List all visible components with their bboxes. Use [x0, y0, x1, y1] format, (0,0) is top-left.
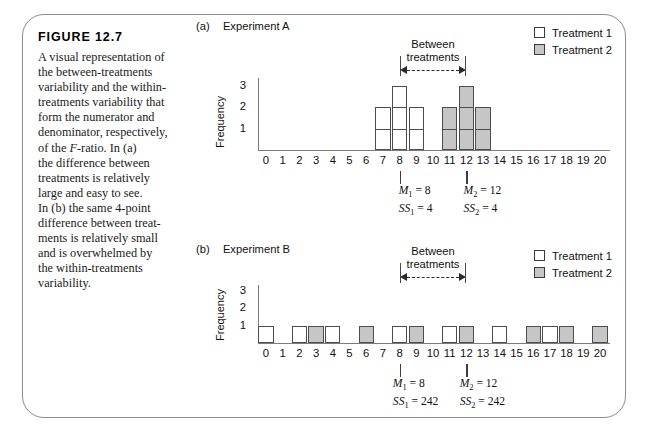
- caption-line: denominator, respectively,: [38, 125, 178, 140]
- x-tick-label: 9: [413, 154, 419, 166]
- x-tick-label: 19: [577, 347, 590, 359]
- mean-stat-line: M1 = 8: [399, 184, 433, 202]
- x-tick-label: 7: [380, 154, 386, 166]
- x-tick-label: 11: [444, 347, 456, 359]
- x-tick-label: 19: [577, 154, 590, 166]
- x-tick-label: 10: [427, 154, 440, 166]
- histogram-bar: [442, 326, 457, 343]
- mean-stat-line: M2 = 12: [460, 377, 506, 395]
- caption-line: In (b) the same 4-point: [38, 201, 178, 216]
- arrowhead-right-icon: [459, 66, 466, 74]
- x-tick-label: 14: [494, 154, 507, 166]
- x-tick-label: 17: [544, 347, 557, 359]
- x-tick-label: 15: [510, 347, 523, 359]
- bar-unit-divider: [475, 129, 490, 130]
- mean-pointer-tick: [466, 364, 467, 377]
- bar-unit-divider: [459, 107, 474, 108]
- x-tick-label: 5: [346, 154, 352, 166]
- histogram-bar: [459, 86, 474, 150]
- legend-label-treatment-1-b: Treatment 1: [552, 250, 612, 262]
- histogram-bar: [492, 326, 507, 343]
- legend-item-treatment-2: Treatment 2: [534, 42, 612, 57]
- panel-b-title: (b) Experiment B: [196, 243, 290, 255]
- caption-line: large and easy to see.: [38, 186, 178, 201]
- x-tick-label: 2: [296, 347, 302, 359]
- y-tick-label: 2: [234, 301, 246, 313]
- caption-line: the difference between: [38, 156, 178, 171]
- x-tick-label: 11: [444, 154, 456, 166]
- between-treatments-annotation-b: Between treatments: [400, 245, 467, 284]
- legend-item-treatment-1: Treatment 1: [534, 25, 612, 40]
- x-tick-label: 2: [296, 154, 302, 166]
- arrowhead-left-icon: [400, 66, 407, 74]
- bar-unit-divider: [375, 129, 390, 130]
- x-tick-label: 18: [560, 154, 573, 166]
- caption-line: A visual representation of: [38, 50, 178, 65]
- ss-stat-line: SS2 = 4: [463, 202, 501, 220]
- treatment-stats-block: M1 = 8SS1 = 242: [393, 377, 439, 413]
- figure-number-label: FIGURE 12.7: [38, 30, 178, 44]
- caption-line: the between-treatments: [38, 65, 178, 80]
- y-tick-label: 3: [234, 79, 246, 91]
- bar-unit-divider: [392, 129, 407, 130]
- x-tick-label: 8: [396, 347, 402, 359]
- x-axis-line: [258, 150, 610, 151]
- legend-label-treatment-1: Treatment 1: [552, 27, 612, 39]
- x-tick-label: 12: [460, 347, 473, 359]
- panel-a-marker: (a): [196, 20, 210, 32]
- panel-a-title: (a) Experiment A: [196, 20, 289, 32]
- mean-pointer-tick: [400, 171, 401, 184]
- mean-pointer-tick: [466, 171, 467, 184]
- caption-line: treatments is relatively: [38, 171, 178, 186]
- caption-line: difference between treat-: [38, 216, 178, 231]
- x-tick-label: 6: [363, 154, 369, 166]
- x-axis-line: [258, 343, 610, 344]
- caption-line: ments is relatively small: [38, 231, 178, 246]
- caption-line: the within-treatments: [38, 261, 178, 276]
- between-label-line2-b: treatments: [407, 258, 460, 270]
- panel-a-title-text: Experiment A: [223, 20, 290, 32]
- x-tick-label: 16: [527, 154, 540, 166]
- histogram-bar: [392, 326, 407, 343]
- treatment-stats-block: M2 = 12SS2 = 242: [460, 377, 506, 413]
- ss-stat-line: SS1 = 242: [393, 395, 439, 413]
- bar-unit-divider: [442, 129, 457, 130]
- histogram-bar: [392, 86, 407, 150]
- arrow-dashed-line-b: [407, 277, 460, 278]
- histogram-bar: [559, 326, 574, 343]
- legend-swatch-treatment-2: [534, 44, 545, 55]
- ss-stat-line: SS1 = 4: [399, 202, 433, 220]
- treatment-stats-block: M2 = 12SS2 = 4: [463, 184, 501, 220]
- y-axis-title: Frequency: [214, 289, 226, 341]
- x-tick-label: 4: [330, 347, 336, 359]
- panel-experiment-a: (a) Experiment A Treatment 1 Treatment 2…: [196, 20, 616, 235]
- x-tick-label: 15: [510, 154, 523, 166]
- x-tick-label: 13: [477, 347, 490, 359]
- x-tick-label: 1: [280, 154, 286, 166]
- between-label-line2: treatments: [407, 51, 460, 63]
- x-tick-label: 18: [560, 347, 573, 359]
- x-tick-label: 8: [396, 154, 402, 166]
- legend-swatch-treatment-1-b: [534, 250, 545, 261]
- between-treatments-label-a: Between treatments: [400, 38, 467, 64]
- caption-line: form the numerator and: [38, 110, 178, 125]
- x-tick-label: 3: [313, 347, 319, 359]
- legend-label-treatment-2: Treatment 2: [552, 44, 612, 56]
- bar-unit-divider: [459, 129, 474, 130]
- panel-b-marker: (b): [196, 243, 210, 255]
- bar-unit-divider: [392, 107, 407, 108]
- x-tick-label: 13: [477, 154, 490, 166]
- panel-experiment-b: (b) Experiment B Treatment 1 Treatment 2…: [196, 243, 616, 418]
- histogram-bar: [325, 326, 340, 343]
- x-tick-label: 17: [544, 154, 557, 166]
- histogram-bar: [459, 326, 474, 343]
- histogram-bar: [592, 326, 607, 343]
- between-label-line1: Between: [411, 38, 455, 50]
- histogram-bar: [308, 326, 323, 343]
- x-tick-label: 6: [363, 347, 369, 359]
- legend-swatch-treatment-2-b: [534, 267, 545, 278]
- between-label-line1-b: Between: [411, 245, 455, 257]
- x-tick-label: 1: [280, 347, 286, 359]
- x-tick-label: 3: [313, 154, 319, 166]
- mean-pointer-tick: [400, 364, 401, 377]
